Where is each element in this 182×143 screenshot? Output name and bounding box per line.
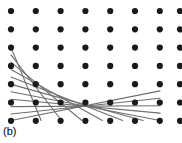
- lattice-dot: [82, 118, 88, 124]
- lattice-dot: [33, 63, 39, 69]
- lattice-dot: [107, 8, 113, 14]
- lattice-dot: [8, 45, 14, 51]
- lattice-dot: [157, 81, 163, 87]
- lattice-dot: [33, 118, 39, 124]
- lattice-dot: [157, 8, 163, 14]
- lattice-dot: [132, 26, 138, 32]
- lattice-dot: [157, 45, 163, 51]
- lattice-dot: [8, 81, 14, 87]
- lattice-dot: [82, 45, 88, 51]
- lattice-dot: [58, 99, 64, 105]
- lattice-dot: [8, 8, 14, 14]
- lattice-dot: [33, 45, 39, 51]
- lattice-dot: [8, 99, 14, 105]
- lattice-dot: [33, 8, 39, 14]
- lattice-dot: [58, 118, 64, 124]
- lattice-dot: [132, 8, 138, 14]
- lattice-dot: [132, 118, 138, 124]
- lattice-dot: [58, 63, 64, 69]
- lattice-dot: [132, 99, 138, 105]
- lattice-dot: [8, 26, 14, 32]
- lattice-dot: [82, 99, 88, 105]
- lattice-dot: [58, 81, 64, 87]
- lattice-dot: [107, 45, 113, 51]
- lattice-dot: [157, 99, 163, 105]
- lattice-dot: [107, 26, 113, 32]
- lattice-dot: [107, 118, 113, 124]
- lattice-dot: [33, 26, 39, 32]
- lattice-dot: [58, 26, 64, 32]
- lattice-dot: [157, 26, 163, 32]
- lattice-dot: [107, 63, 113, 69]
- figure-caption: (b): [3, 125, 16, 137]
- lattice-dot: [58, 45, 64, 51]
- lattice-figure: (b): [0, 0, 182, 143]
- lattice-dot: [157, 118, 163, 124]
- lattice-dot: [8, 118, 14, 124]
- lattice-dot: [33, 99, 39, 105]
- lattice-dot: [58, 8, 64, 14]
- lattice-dot: [107, 81, 113, 87]
- lattice-dot: [107, 99, 113, 105]
- lattice-dot: [82, 63, 88, 69]
- lattice-dot: [132, 45, 138, 51]
- lattice-dot: [82, 81, 88, 87]
- lattice-dot: [82, 26, 88, 32]
- lattice-dot: [82, 8, 88, 14]
- lattice-diagram: [0, 0, 182, 143]
- lattice-dot: [132, 63, 138, 69]
- lattice-dot: [33, 81, 39, 87]
- lattice-dot: [8, 63, 14, 69]
- figure-background: [0, 0, 182, 143]
- lattice-dot: [132, 81, 138, 87]
- lattice-dot: [157, 63, 163, 69]
